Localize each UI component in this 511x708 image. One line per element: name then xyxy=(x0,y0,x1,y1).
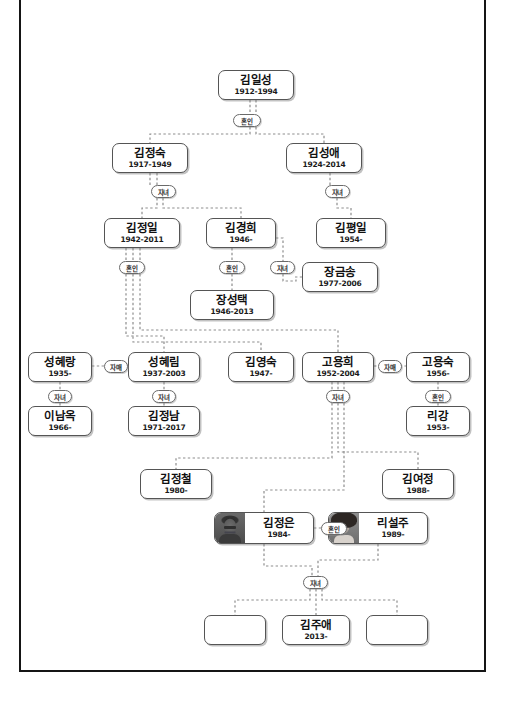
person-node-ko_yong_hui[interactable]: 고용희1952-2004 xyxy=(302,352,374,382)
person-name-kim_jong_nam: 김정남 xyxy=(148,411,180,423)
person-years-ko_yong_hui: 1952-2004 xyxy=(316,370,359,378)
relation-pill-p_child_shl: 자녀 xyxy=(152,390,176,403)
person-years-lee_nam_ok: 1966- xyxy=(49,424,72,432)
person-years-ri_gang: 1953- xyxy=(427,424,450,432)
relation-pill-p_sis_song: 자매 xyxy=(104,360,128,373)
person-years-ko_yong_suk: 1956- xyxy=(427,370,450,378)
person-years-kim_song_ae: 1924-2014 xyxy=(302,161,345,169)
person-text-song_hye_rang: 성혜랑1935- xyxy=(29,353,91,381)
person-text-kim_song_ae: 김성애1924-2014 xyxy=(287,144,361,172)
person-text-kim_jong_nam: 김정남1971-2017 xyxy=(129,407,199,435)
person-name-kim_jong_il: 김정일 xyxy=(126,223,158,235)
person-name-jang_song_thaek: 장성택 xyxy=(216,295,248,307)
person-text-kim_jong_chul: 김정철1980- xyxy=(141,470,211,498)
person-text-ko_yong_suk: 고용숙1956- xyxy=(407,353,469,381)
person-text-lee_nam_ok: 이남옥1966- xyxy=(29,407,91,435)
person-name-kim_pyong_il: 김평일 xyxy=(335,223,367,235)
person-node-unnamed_left[interactable] xyxy=(204,615,266,645)
person-node-song_hye_rang[interactable]: 성혜랑1935- xyxy=(28,352,92,382)
person-name-ri_sol_ju: 리설주 xyxy=(377,518,409,530)
person-name-kim_song_ae: 김성애 xyxy=(308,148,340,160)
person-name-kim_young_sook: 김영숙 xyxy=(245,357,277,369)
relation-pill-p_marriage_kji: 혼인 xyxy=(119,261,145,274)
person-name-lee_nam_ok: 이남옥 xyxy=(44,411,76,423)
person-text-jang_kum_song: 장금송1977-2006 xyxy=(303,263,377,291)
person-node-kim_song_ae[interactable]: 김성애1924-2014 xyxy=(286,143,362,173)
person-years-kim_yo_jong: 1988- xyxy=(407,487,430,495)
person-node-lee_nam_ok[interactable]: 이남옥1966- xyxy=(28,406,92,436)
person-name-song_hye_rim: 성혜림 xyxy=(148,357,180,369)
person-years-kim_ju_ae: 2013- xyxy=(305,633,328,641)
relation-pill-p_child_jongsuk: 자녀 xyxy=(151,185,176,198)
person-years-kim_jong_il: 1942-2011 xyxy=(120,236,163,244)
person-text-kim_jong_un: 김정은1984- xyxy=(245,513,313,543)
person-years-ri_sol_ju: 1989- xyxy=(382,531,405,539)
relation-pill-p_marriage_kys: 혼인 xyxy=(425,390,451,403)
person-name-jang_kum_song: 장금송 xyxy=(324,267,356,279)
family-tree-diagram: 김일성1912-1994김정숙1917-1949김성애1924-2014김정일1… xyxy=(0,0,511,708)
person-years-kim_jong_un: 1984- xyxy=(268,531,291,539)
person-text-ri_sol_ju: 리설주1989- xyxy=(359,513,427,543)
person-years-kim_jong_chul: 1980- xyxy=(165,487,188,495)
person-text-jang_song_thaek: 장성택1946-2013 xyxy=(191,291,273,319)
person-text-kim_pyong_il: 김평일1954- xyxy=(317,219,385,247)
relation-pill-p_child_kyh: 자녀 xyxy=(326,390,350,403)
person-node-jang_song_thaek[interactable]: 장성택1946-2013 xyxy=(190,290,274,320)
person-name-ko_yong_suk: 고용숙 xyxy=(422,357,454,369)
person-node-kim_jong_chul[interactable]: 김정철1980- xyxy=(140,469,212,499)
relation-pill-p_child_songae: 자녀 xyxy=(325,185,350,198)
relation-pill-p_marriage_kju: 혼인 xyxy=(321,522,347,535)
person-text-song_hye_rim: 성혜림1937-2003 xyxy=(129,353,199,381)
person-node-kim_jong_un[interactable]: 김정은1984- xyxy=(214,512,314,544)
person-years-jang_song_thaek: 1946-2013 xyxy=(210,308,253,316)
person-node-kim_young_sook[interactable]: 김영숙1947- xyxy=(228,352,294,382)
person-text-kim_jong_suk: 김정숙1917-1949 xyxy=(113,144,187,172)
person-name-kim_jong_un: 김정은 xyxy=(263,518,295,530)
person-text-kim_young_sook: 김영숙1947- xyxy=(229,353,293,381)
person-node-kim_yo_jong[interactable]: 김여정1988- xyxy=(382,469,454,499)
person-years-kim_pyong_il: 1954- xyxy=(340,236,363,244)
person-name-kim_kyong_hui: 김경희 xyxy=(225,223,257,235)
person-node-kim_pyong_il[interactable]: 김평일1954- xyxy=(316,218,386,248)
relation-pill-p_marriage_kkh: 혼인 xyxy=(219,261,245,274)
person-text-kim_il_sung: 김일성1912-1994 xyxy=(219,71,293,99)
person-node-kim_jong_nam[interactable]: 김정남1971-2017 xyxy=(128,406,200,436)
person-years-kim_il_sung: 1912-1994 xyxy=(234,88,277,96)
person-years-kim_jong_suk: 1917-1949 xyxy=(128,161,171,169)
person-text-ko_yong_hui: 고용희1952-2004 xyxy=(303,353,373,381)
person-node-kim_jong_suk[interactable]: 김정숙1917-1949 xyxy=(112,143,188,173)
person-name-ko_yong_hui: 고용희 xyxy=(322,357,354,369)
person-text-kim_jong_il: 김정일1942-2011 xyxy=(105,219,179,247)
person-years-kim_jong_nam: 1971-2017 xyxy=(142,424,185,432)
person-text-ri_gang: 리강1953- xyxy=(407,407,469,435)
person-years-kim_young_sook: 1947- xyxy=(250,370,273,378)
person-name-song_hye_rang: 성혜랑 xyxy=(44,357,76,369)
relation-pill-p_child_kju: 자녀 xyxy=(303,576,328,589)
person-text-kim_kyong_hui: 김경희1946- xyxy=(207,219,275,247)
page-frame-border xyxy=(19,0,486,672)
person-text-kim_ju_ae: 김주애2013- xyxy=(283,616,349,644)
person-text-kim_yo_jong: 김여정1988- xyxy=(383,470,453,498)
person-years-song_hye_rang: 1935- xyxy=(49,370,72,378)
person-name-kim_il_sung: 김일성 xyxy=(240,75,272,87)
person-node-ri_gang[interactable]: 리강1953- xyxy=(406,406,470,436)
person-node-ko_yong_suk[interactable]: 고용숙1956- xyxy=(406,352,470,382)
person-node-kim_kyong_hui[interactable]: 김경희1946- xyxy=(206,218,276,248)
relation-pill-p_child_kkh: 자녀 xyxy=(270,261,295,274)
relation-pill-p_sis_ko: 자매 xyxy=(378,360,402,373)
person-node-kim_jong_il[interactable]: 김정일1942-2011 xyxy=(104,218,180,248)
person-name-kim_yo_jong: 김여정 xyxy=(402,474,434,486)
person-name-ri_gang: 리강 xyxy=(427,411,448,423)
person-node-kim_ju_ae[interactable]: 김주애2013- xyxy=(282,615,350,645)
portrait-photo-kim_jong_un xyxy=(215,513,245,543)
person-node-unnamed_right[interactable] xyxy=(366,615,428,645)
person-years-kim_kyong_hui: 1946- xyxy=(230,236,253,244)
person-years-jang_kum_song: 1977-2006 xyxy=(318,280,361,288)
relation-pill-p_marriage_ils: 혼인 xyxy=(233,114,261,127)
person-node-song_hye_rim[interactable]: 성혜림1937-2003 xyxy=(128,352,200,382)
relation-pill-p_child_shr: 자녀 xyxy=(48,390,72,403)
person-name-kim_jong_chul: 김정철 xyxy=(160,474,192,486)
person-years-song_hye_rim: 1937-2003 xyxy=(142,370,185,378)
person-node-kim_il_sung[interactable]: 김일성1912-1994 xyxy=(218,70,294,100)
person-node-jang_kum_song[interactable]: 장금송1977-2006 xyxy=(302,262,378,292)
